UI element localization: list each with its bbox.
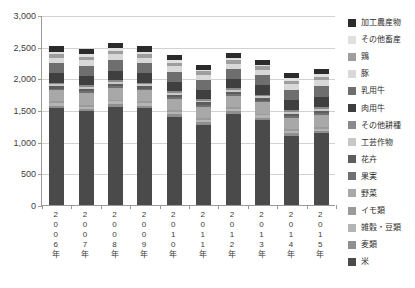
x-tick-mark <box>71 205 72 209</box>
legend-swatch-icon <box>348 155 356 163</box>
x-axis-category-label: 2011年 <box>193 210 213 260</box>
x-tick-mark <box>101 205 102 209</box>
legend-label: 野菜 <box>361 189 377 198</box>
bar-segment <box>314 133 329 205</box>
legend-item: 野菜 <box>348 185 414 202</box>
y-axis-tick-label: 3,000 <box>13 12 36 21</box>
x-axis-category-label: 2015年 <box>310 210 330 260</box>
bar-segment <box>79 76 94 86</box>
y-axis-tick-label: 1,500 <box>13 107 36 116</box>
bar-stack <box>79 49 94 205</box>
legend-swatch-icon <box>348 70 356 78</box>
bar-stack <box>284 73 299 205</box>
x-tick-mark <box>277 205 278 209</box>
legend-item: 鶏 <box>348 48 414 65</box>
chart-legend: 加工農産物その他畜産鶏豚乳用牛肉用牛その他耕種工芸作物花卉果実野菜イモ類雑穀・豆… <box>348 14 414 270</box>
legend-label: 鶏 <box>361 52 369 61</box>
bar-stack <box>314 69 329 205</box>
legend-swatch-icon <box>348 138 356 146</box>
y-axis-tick-label: 2,000 <box>13 75 36 84</box>
legend-item: その他畜産 <box>348 31 414 48</box>
bar-segment <box>226 79 241 89</box>
legend-label: 肉用牛 <box>361 104 385 113</box>
bar-segment <box>167 72 182 82</box>
legend-label: 乳用牛 <box>361 86 385 95</box>
legend-item: 果実 <box>348 168 414 185</box>
legend-item: 肉用牛 <box>348 99 414 116</box>
x-tick-mark <box>307 205 308 209</box>
legend-label: 雑穀・豆類 <box>361 223 401 232</box>
bar-stack <box>226 53 241 205</box>
legend-label: 豚 <box>361 69 369 78</box>
legend-label: 米 <box>361 257 369 266</box>
bar-segment <box>196 90 211 99</box>
legend-swatch-icon <box>348 104 356 112</box>
bar-segment <box>196 107 211 118</box>
bar-stack <box>167 55 182 205</box>
x-tick-mark <box>160 205 161 209</box>
bar-segment <box>137 108 152 205</box>
legend-label: 果実 <box>361 172 377 181</box>
bar-segment <box>79 66 94 76</box>
legend-item: 工芸作物 <box>348 134 414 151</box>
bar-segment <box>108 107 123 205</box>
bar-segment <box>314 97 329 107</box>
bar-segment <box>284 100 299 110</box>
legend-item: 麦類 <box>348 236 414 253</box>
legend-swatch-icon <box>348 258 356 266</box>
x-tick-mark <box>218 205 219 209</box>
bar-segment <box>226 114 241 205</box>
legend-item: 花卉 <box>348 151 414 168</box>
x-axis-category-label: 2006年 <box>46 210 66 260</box>
bar-segment <box>167 82 182 92</box>
bar-segment <box>137 90 152 101</box>
x-tick-mark <box>336 205 337 209</box>
bar-stack <box>108 43 123 205</box>
legend-item: 豚 <box>348 65 414 82</box>
bar-segment <box>49 73 64 83</box>
x-tick-mark <box>189 205 190 209</box>
x-axis-category-label: 2010年 <box>163 210 183 260</box>
x-axis-category-label: 2014年 <box>281 210 301 260</box>
bar-segment <box>255 120 270 205</box>
bar-segment <box>226 96 241 107</box>
bar-segment <box>255 75 270 85</box>
legend-item: 加工農産物 <box>348 14 414 31</box>
x-axis-category-label: 2009年 <box>134 210 154 260</box>
legend-swatch-icon <box>348 36 356 44</box>
legend-swatch-icon <box>348 224 356 232</box>
bar-segment <box>108 88 123 99</box>
y-axis-tick-label: 2,500 <box>13 43 36 52</box>
y-axis-tick-label: 500 <box>21 170 36 179</box>
bar-segment <box>49 108 64 205</box>
legend-swatch-icon <box>348 53 356 61</box>
x-axis-category-label: 2007年 <box>75 210 95 260</box>
bar-segment <box>284 90 299 100</box>
x-tick-mark <box>42 205 43 209</box>
bar-segment <box>284 118 299 129</box>
bar-segment <box>314 86 329 96</box>
bar-segment <box>79 93 94 104</box>
legend-item: イモ類 <box>348 202 414 219</box>
legend-item: 米 <box>348 253 414 270</box>
legend-label: 工芸作物 <box>361 138 393 147</box>
legend-swatch-icon <box>348 87 356 95</box>
bar-segment <box>167 99 182 110</box>
legend-label: 麦類 <box>361 240 377 249</box>
legend-swatch-icon <box>348 189 356 197</box>
legend-label: その他耕種 <box>361 121 401 130</box>
x-axis-category-label: 2012年 <box>222 210 242 260</box>
bar-segment <box>137 73 152 83</box>
y-axis-tick-label: 1,000 <box>13 138 36 147</box>
bar-segment <box>255 85 270 95</box>
legend-item: 乳用牛 <box>348 82 414 99</box>
x-axis-labels: 2006年2007年2008年2009年2010年2011年2012年2013年… <box>41 210 335 286</box>
plot-area: 05001,0001,5002,0002,5003,000 <box>41 16 335 206</box>
bar-segment <box>49 90 64 101</box>
legend-label: イモ類 <box>361 206 385 215</box>
legend-swatch-icon <box>348 172 356 180</box>
legend-swatch-icon <box>348 207 356 215</box>
bar-segment <box>284 136 299 205</box>
bar-stack <box>137 46 152 205</box>
bar-segment <box>226 69 241 79</box>
